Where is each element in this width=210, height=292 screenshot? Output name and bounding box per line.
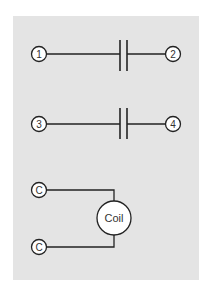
terminal-1: 1: [32, 47, 47, 62]
relay-diagram: 1 2 3 4 Coil C: [0, 0, 210, 292]
terminal-2: 2: [166, 47, 181, 62]
terminal-1-label: 1: [36, 49, 42, 60]
contact-1-2: 1 2: [32, 40, 181, 71]
terminal-4-label: 4: [170, 119, 176, 130]
coil-terminal-top: C: [32, 183, 47, 198]
terminal-2-label: 2: [170, 49, 176, 60]
coil-label: Coil: [105, 212, 124, 224]
terminal-3-label: 3: [36, 119, 42, 130]
coil-terminal-bottom-label: C: [35, 242, 42, 253]
coil-circuit: Coil C C: [32, 183, 132, 255]
coil-terminal-top-label: C: [35, 185, 42, 196]
coil-terminal-bottom: C: [32, 240, 47, 255]
contact-3-4: 3 4: [32, 108, 181, 139]
terminal-3: 3: [32, 117, 47, 132]
terminal-4: 4: [166, 117, 181, 132]
coil: Coil: [97, 201, 131, 235]
